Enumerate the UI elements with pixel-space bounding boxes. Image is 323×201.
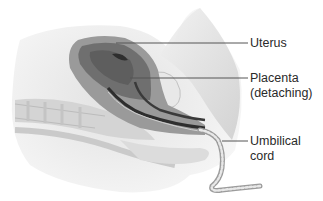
label-placenta: Placenta (detaching) xyxy=(250,71,313,101)
label-uterus-text: Uterus xyxy=(250,36,287,51)
label-uterus: Uterus xyxy=(250,36,287,51)
label-umbilical-cord: Umbilical cord xyxy=(250,134,301,164)
label-placenta-subtext: (detaching) xyxy=(250,86,313,101)
label-umbilical-text: Umbilical xyxy=(250,134,301,149)
label-placenta-text: Placenta xyxy=(250,71,313,86)
label-cord-text: cord xyxy=(250,149,301,164)
